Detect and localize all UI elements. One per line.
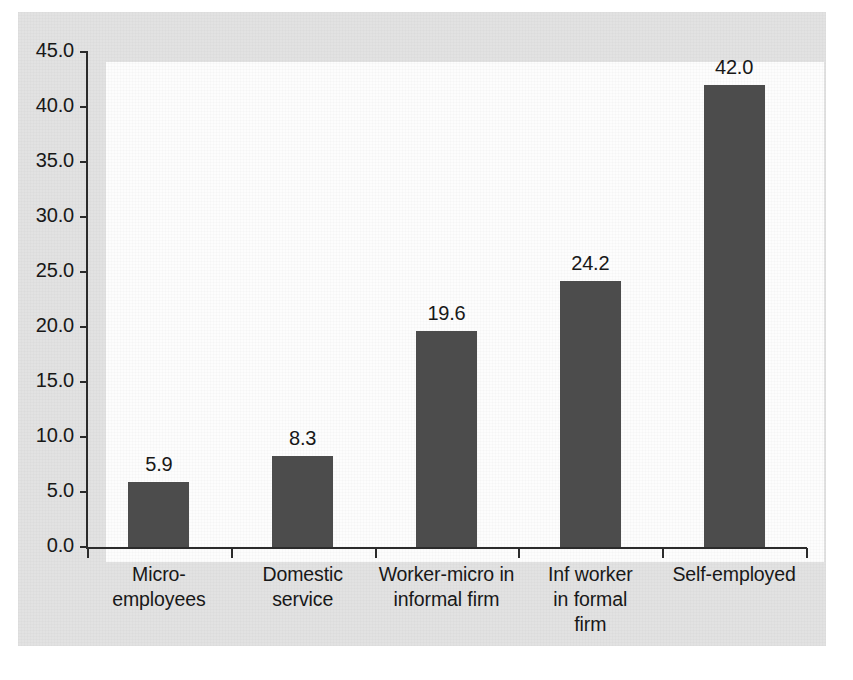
bar-value-label: 19.6	[397, 302, 497, 325]
x-axis-category-label-line: service	[231, 587, 375, 612]
y-axis-tick-label: 25.0	[4, 259, 74, 282]
y-axis-tick-label: 0.0	[4, 534, 74, 557]
x-axis-category-label: Micro-employees	[87, 562, 231, 612]
y-axis-tick-mark	[80, 161, 88, 163]
y-axis-tick-mark	[80, 51, 88, 53]
y-axis-tick-label: 20.0	[4, 314, 74, 337]
y-axis-line	[86, 52, 88, 549]
y-axis-tick-mark	[80, 106, 88, 108]
x-axis-category-label-line: Micro-employees	[87, 562, 231, 612]
x-axis-category-label-line: Inf worker	[518, 562, 662, 587]
x-axis-category-label-line: firm	[518, 612, 662, 637]
x-axis-tick-mark	[87, 548, 89, 558]
bar	[704, 85, 765, 547]
y-axis-tick-label: 5.0	[4, 479, 74, 502]
x-axis-category-label: Worker-micro ininformal firm	[375, 562, 519, 612]
y-axis-tick-label: 40.0	[4, 94, 74, 117]
chart-page: 0.05.010.015.020.025.030.035.040.045.0 5…	[0, 0, 853, 680]
x-axis-category-label: Domesticservice	[231, 562, 375, 612]
y-axis-tick-label: 35.0	[4, 149, 74, 172]
y-axis-tick-label: 30.0	[4, 204, 74, 227]
x-axis-category-label-line: in formal	[518, 587, 662, 612]
y-axis-tick-mark	[80, 381, 88, 383]
bar-value-label: 24.2	[540, 252, 640, 275]
bar	[416, 331, 477, 547]
y-axis-tick-mark	[80, 491, 88, 493]
y-axis-tick-label: 45.0	[4, 39, 74, 62]
x-axis-category-label: Self-employed	[662, 562, 806, 587]
y-axis-tick-mark	[80, 271, 88, 273]
x-axis-category-label-line: Worker-micro in	[375, 562, 519, 587]
y-axis-tick-mark	[80, 326, 88, 328]
x-axis-category-label-line: Self-employed	[662, 562, 806, 587]
y-axis-tick-label: 15.0	[4, 369, 74, 392]
x-axis-tick-mark	[375, 548, 377, 558]
bar-value-label: 8.3	[253, 427, 353, 450]
bar	[272, 456, 333, 547]
x-axis-tick-mark	[231, 548, 233, 558]
bar	[128, 482, 189, 547]
y-axis-tick-mark	[80, 216, 88, 218]
bar	[560, 281, 621, 547]
x-axis-tick-mark	[518, 548, 520, 558]
y-axis-tick-label: 10.0	[4, 424, 74, 447]
x-axis-tick-mark	[806, 548, 808, 558]
bar-value-label: 42.0	[684, 56, 784, 79]
x-axis-category-label-line: informal firm	[375, 587, 519, 612]
bar-value-label: 5.9	[109, 453, 209, 476]
x-axis-line	[86, 547, 807, 549]
x-axis-category-label-line: Domestic	[231, 562, 375, 587]
x-axis-tick-mark	[662, 548, 664, 558]
y-axis-tick-mark	[80, 436, 88, 438]
x-axis-category-label: Inf workerin formalfirm	[518, 562, 662, 637]
